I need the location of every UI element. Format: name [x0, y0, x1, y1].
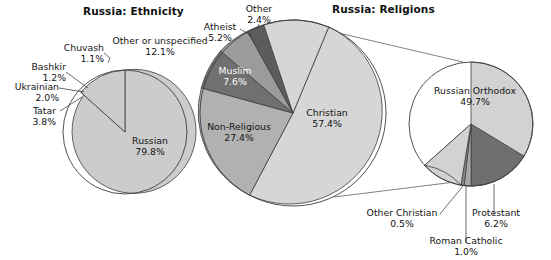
figure-pie-charts: Russia: Ethnicity Russia: Religions [0, 0, 551, 260]
pie-christian-breakdown [409, 62, 533, 186]
label-roman-catholic-name: Roman Catholic [429, 235, 502, 246]
label-other-unspecified-pct: 12.1% [105, 47, 215, 58]
label-atheist-pct: 5.2% [195, 33, 245, 44]
label-russian-orthodox: Russian Orthodox 49.7% [426, 86, 524, 107]
label-tatar-pct: 3.8% [8, 117, 56, 128]
label-ukrainian-name: Ukrainian [15, 81, 59, 92]
label-tatar: Tatar 3.8% [8, 106, 56, 127]
label-russian-orthodox-name: Russian Orthodox [434, 85, 516, 96]
label-christian: Christian 57.4% [296, 108, 358, 129]
label-russian-orthodox-pct: 49.7% [426, 97, 524, 108]
label-protestant: Protestant 6.2% [466, 208, 526, 229]
label-chuvash-name: Chuvash [64, 42, 104, 53]
label-non-religious-name: Non-Religious [207, 121, 271, 132]
label-other-religion-name: Other [246, 3, 272, 14]
label-russian: Russian 79.8% [115, 136, 185, 157]
label-protestant-pct: 6.2% [466, 219, 526, 230]
label-atheist: Atheist 5.2% [195, 22, 245, 43]
label-other-unspecified-name: Other or unspecified [112, 35, 207, 46]
label-tatar-name: Tatar [33, 105, 56, 116]
label-atheist-name: Atheist [204, 21, 237, 32]
label-other-christian-name: Other Christian [367, 207, 438, 218]
label-ukrainian-pct: 2.0% [0, 93, 59, 104]
label-non-religious-pct: 27.4% [198, 133, 280, 144]
label-muslim-name: Muslim [219, 65, 252, 76]
label-roman-catholic: Roman Catholic 1.0% [419, 236, 513, 257]
label-russian-name: Russian [132, 135, 168, 146]
label-russian-pct: 79.8% [115, 147, 185, 158]
label-roman-catholic-pct: 1.0% [419, 247, 513, 258]
label-muslim: Muslim 7.6% [209, 66, 261, 87]
label-christian-pct: 57.4% [296, 119, 358, 130]
label-other-christian: Other Christian 0.5% [361, 208, 443, 229]
label-protestant-name: Protestant [472, 207, 520, 218]
label-bashkir-name: Bashkir [31, 61, 66, 72]
label-bashkir: Bashkir 1.2% [10, 62, 66, 83]
label-non-religious: Non-Religious 27.4% [198, 122, 280, 143]
pie-ethnicity [63, 69, 196, 194]
label-ukrainian: Ukrainian 2.0% [0, 82, 59, 103]
label-muslim-pct: 7.6% [209, 77, 261, 88]
label-other-christian-pct: 0.5% [361, 219, 443, 230]
label-christian-name: Christian [306, 107, 347, 118]
